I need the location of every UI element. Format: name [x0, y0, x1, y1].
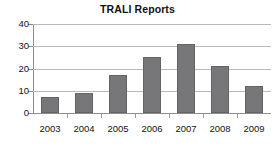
bar-2007: [177, 44, 195, 113]
x-tick-label-2008: 2008: [203, 124, 237, 134]
x-tick-label-2006: 2006: [135, 124, 169, 134]
x-tick-label-2005: 2005: [101, 124, 135, 134]
bar-2009: [245, 86, 263, 113]
x-tick-label-2003: 2003: [33, 124, 67, 134]
x-tick-mark-5: [237, 114, 238, 118]
bar-2006: [143, 57, 161, 113]
x-tick-label-2004: 2004: [67, 124, 101, 134]
chart-title: TRALI Reports: [0, 3, 275, 15]
trali-reports-bar-chart: TRALI Reports 010203040 2003200420052006…: [0, 0, 275, 146]
x-tick-label-2007: 2007: [169, 124, 203, 134]
bar-2005: [109, 75, 127, 113]
y-tick-label-40: 40: [3, 19, 29, 29]
y-tick-label-10: 10: [3, 86, 29, 96]
plot-area: [33, 24, 271, 113]
gridline-40: [33, 24, 271, 25]
y-tick-label-30: 30: [3, 41, 29, 51]
y-tick-label-0: 0: [3, 108, 29, 118]
gridline-0: [33, 113, 271, 114]
x-tick-mark-1: [101, 114, 102, 118]
bar-2008: [211, 66, 229, 113]
x-tick-label-2009: 2009: [237, 124, 271, 134]
y-axis-labels: 010203040: [0, 0, 29, 146]
x-tick-mark-3: [169, 114, 170, 118]
bar-2004: [75, 93, 93, 113]
x-tick-mark-4: [203, 114, 204, 118]
gridline-30: [33, 46, 271, 47]
x-tick-mark-0: [67, 114, 68, 118]
x-tick-mark-2: [135, 114, 136, 118]
bar-2003: [41, 97, 59, 113]
y-tick-label-20: 20: [3, 64, 29, 74]
